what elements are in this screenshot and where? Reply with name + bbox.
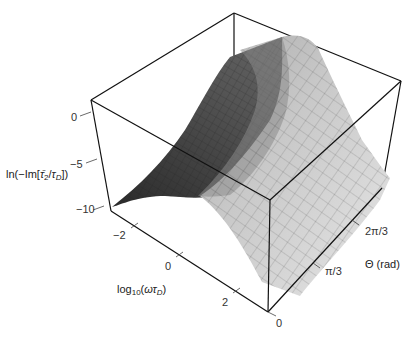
y-tick-label: 0 [276, 317, 282, 329]
z-label-text: ln(−Im[ [6, 168, 40, 180]
z-axis-ticks [80, 112, 104, 210]
z-axis-label: ln(−Im[τ̄2/τD]) [6, 168, 68, 182]
x-label-omega: ωτ [144, 283, 156, 295]
x-label-sub: 10 [132, 288, 141, 297]
z-tick-label: 0 [71, 111, 77, 123]
y-axis-label: Θ (rad) [365, 258, 400, 270]
x-tick-label: 2 [222, 296, 228, 308]
x-label-log: log [117, 283, 132, 295]
z-tick-label: −10 [76, 203, 95, 215]
x-axis-label: log10(ωτD) [117, 283, 166, 297]
x-tick-label: 0 [165, 260, 171, 272]
y-tick-label: π/3 [325, 265, 342, 277]
x-tick-label: −2 [113, 229, 126, 241]
z-label-end: ]) [61, 168, 68, 180]
z-tick-label: −5 [70, 158, 83, 170]
y-tick-label: 2π/3 [365, 225, 388, 237]
x-label-end: ) [163, 283, 167, 295]
